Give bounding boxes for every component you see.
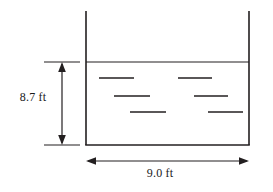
width-dimension-group — [86, 157, 249, 165]
tank-diagram-figure: 8.7 ft 9.0 ft — [0, 0, 273, 192]
height-arrowhead-down — [58, 135, 66, 145]
height-arrowhead-up — [58, 62, 66, 72]
water-marks-group — [99, 78, 243, 112]
width-arrowhead-right — [239, 157, 249, 165]
height-dimension-label: 8.7 ft — [10, 90, 56, 105]
width-arrowhead-left — [86, 157, 96, 165]
width-dimension-label: 9.0 ft — [136, 166, 184, 181]
